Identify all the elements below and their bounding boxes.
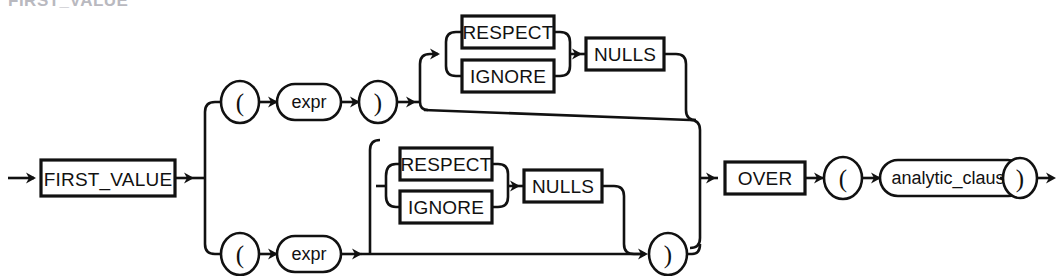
- rail-first-value-to-split: [175, 173, 205, 184]
- label-rparen-top: ): [374, 89, 382, 117]
- label-first-value: FIRST_VALUE: [44, 169, 173, 191]
- label-expr-top: expr: [291, 92, 326, 112]
- page-title-remnant: FIRST_VALUE: [8, 0, 128, 11]
- railroad-diagram-canvas: FIRST_VALUE ( expr: [0, 0, 1061, 276]
- group-analytic-clause: ( analytic_clause: [824, 157, 1026, 199]
- label-expr-bottom: expr: [291, 244, 326, 264]
- group-rparen-bottom: ): [649, 233, 700, 275]
- group-bottom-expr: ( expr: [221, 233, 362, 275]
- label-lparen-bottom: (: [236, 241, 244, 269]
- label-analytic-clause: analytic_clause: [891, 168, 1014, 189]
- label-ignore-bottom: IGNORE: [408, 197, 484, 218]
- group-bottom-nulls-option: RESPECT IGNORE NULLS: [370, 140, 645, 254]
- label-respect-top: RESPECT: [462, 22, 553, 43]
- label-lparen-top: (: [236, 89, 244, 117]
- label-rparen-bottom: ): [664, 241, 672, 269]
- label-lparen-over: (: [839, 165, 847, 193]
- node-first-value: FIRST_VALUE: [41, 160, 175, 196]
- bottom-nulls-bypass-rail: [362, 249, 648, 260]
- label-respect-bottom: RESPECT: [400, 154, 491, 175]
- top-nulls-bypass-rail: [420, 102, 690, 120]
- merge-to-over-rail: [690, 120, 718, 248]
- label-ignore-top: IGNORE: [470, 66, 546, 87]
- label-nulls-top: NULLS: [594, 44, 656, 65]
- split-branch-connector: [205, 102, 222, 254]
- label-rparen-over: ): [1016, 165, 1024, 193]
- label-over: OVER: [738, 168, 793, 189]
- group-rparen-over: ): [1003, 158, 1056, 198]
- entry-rail: [8, 173, 36, 184]
- group-over: OVER: [725, 162, 824, 194]
- group-top-nulls-option: RESPECT IGNORE NULLS: [420, 16, 696, 120]
- group-top-expr: ( expr ): [221, 81, 420, 123]
- label-nulls-bottom: NULLS: [532, 176, 594, 197]
- first-value-syntax-diagram: FIRST_VALUE FIRST_VALUE: [0, 0, 1061, 276]
